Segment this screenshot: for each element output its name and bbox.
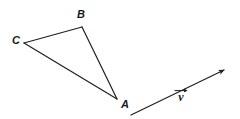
vertex-label-C: C bbox=[12, 35, 20, 46]
vector-label-v: ν bbox=[174, 88, 188, 103]
geometry-figure: A B C ν bbox=[0, 0, 240, 119]
triangle-edge-CB bbox=[24, 27, 82, 43]
vector-label-glyph: ν bbox=[174, 91, 188, 103]
figure-canvas bbox=[0, 0, 240, 119]
triangle-ABC bbox=[24, 27, 117, 99]
vertex-label-B: B bbox=[77, 9, 85, 20]
vertex-label-A: A bbox=[121, 99, 129, 110]
